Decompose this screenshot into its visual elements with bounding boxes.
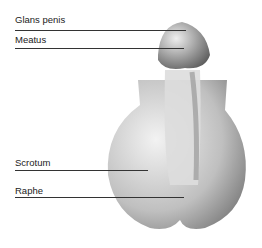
leader-line-raphe [15, 197, 184, 198]
label-meatus: Meatus [15, 34, 46, 45]
label-raphe: Raphe [15, 185, 43, 196]
label-scrotum: Scrotum [15, 157, 50, 168]
shaft-shape [165, 70, 201, 185]
leader-line-glans-penis [15, 30, 186, 31]
leader-line-scrotum [15, 170, 148, 171]
label-glans-penis: Glans penis [15, 14, 65, 25]
leader-line-meatus [15, 48, 184, 49]
